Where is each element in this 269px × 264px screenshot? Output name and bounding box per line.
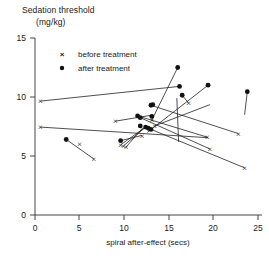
x-tick-label-25: 25 [253,223,263,233]
legend-marker-dot-icon [60,66,64,70]
x-tick-label-10: 10 [119,223,129,233]
legend: × before treatment after treatment [60,50,138,73]
chart-title: Sedation threshold [22,5,95,15]
before-treatment-point: × [38,122,43,132]
x-tick-label-20: 20 [208,223,218,233]
after-treatment-point [138,124,143,129]
pair-line [40,86,179,101]
before-treatment-point: × [123,142,128,152]
before-treatment-point: × [205,132,210,142]
pair-line [40,127,208,138]
before-treatment-point: × [91,154,96,164]
x-tick-label-5: 5 [77,223,82,233]
after-treatment-point [206,83,211,88]
after-treatment-point [150,102,155,107]
legend-marker-x-icon: × [60,50,65,59]
before-treatment-point: × [113,116,118,126]
y-tick-label-0: 0 [21,210,26,220]
before-treatment-point: × [77,139,82,149]
sedation-threshold-scatter-chart: Sedation threshold (mg/kg) 0 5 10 15 0 5… [0,0,269,264]
before-treatment-point: × [186,98,191,108]
before-treatment-point: × [152,121,157,131]
x-axis-ticks: 0 5 10 15 20 25 [33,215,263,233]
y-tick-label-5: 5 [21,151,26,161]
pair-line [245,92,248,115]
legend-label-after: after treatment [78,64,131,73]
after-treatment-point [180,93,185,98]
chart-svg: Sedation threshold (mg/kg) 0 5 10 15 0 5… [0,0,269,264]
y-tick-label-10: 10 [17,92,27,102]
pair-connector-lines [40,68,247,168]
after-treatment-point [64,137,69,142]
x-axis-label: spiral after-effect (secs) [106,238,190,247]
before-treatment-points: ×××××××××××××××× [38,96,247,173]
y-axis-ticks: 0 5 10 15 [17,33,35,220]
before-treatment-point: × [242,163,247,173]
after-treatment-point [177,84,182,89]
before-treatment-point: × [38,96,43,106]
after-treatment-point [245,89,250,94]
chart-title-units: (mg/kg) [36,17,66,27]
after-treatment-point [138,115,143,120]
y-tick-label-15: 15 [17,33,27,43]
legend-label-before: before treatment [78,50,137,59]
before-treatment-point: × [236,129,241,139]
pair-line [177,98,179,142]
x-tick-label-15: 15 [164,223,174,233]
x-tick-label-0: 0 [33,223,38,233]
before-treatment-point: × [207,144,212,154]
before-treatment-point: × [140,131,145,141]
after-treatment-point [175,65,180,70]
